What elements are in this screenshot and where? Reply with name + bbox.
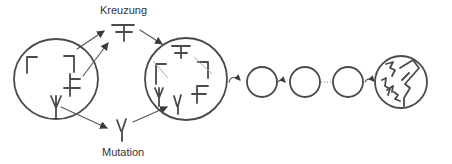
arrow-to-crossing-2 [83, 43, 108, 76]
generation-1-circle [247, 67, 277, 97]
complex-shape [386, 62, 395, 76]
mutation-symbol [117, 119, 126, 141]
faint-stroke [194, 57, 212, 74]
cross-f-symbol [192, 86, 208, 103]
final-population [375, 56, 427, 108]
crossing-symbol [112, 25, 134, 41]
complex-shape [394, 92, 400, 101]
arrow-crossing-to-next [140, 30, 162, 44]
complex-shape [382, 78, 390, 95]
generation-2-circle [290, 67, 320, 97]
generation-n-circle [333, 67, 363, 97]
trident-symbol [51, 96, 61, 118]
evolution-diagram: Kreuzung Mutation [0, 0, 452, 164]
complex-shape [400, 60, 419, 106]
mutation-label: Mutation [102, 146, 144, 158]
population-circle [375, 56, 427, 108]
arrow-to-crossing-1 [77, 31, 104, 49]
corner-right-symbol [64, 56, 74, 72]
cross-f-symbol [64, 74, 80, 96]
arrow-to-gen-1 [229, 77, 240, 82]
next-population [145, 38, 227, 120]
initial-population [14, 39, 98, 119]
double-cross-symbol [172, 46, 190, 58]
complex-shape [402, 73, 409, 80]
trident-symbol [155, 88, 163, 106]
corner-left-symbol [27, 57, 37, 73]
population-circle [145, 38, 227, 120]
arrow-to-gen-2 [278, 80, 285, 82]
gamma-symbol [174, 95, 181, 114]
crossing-label: Kreuzung [100, 4, 147, 16]
corner-right-symbol [198, 62, 208, 78]
arrow-mutation-to-next [133, 107, 167, 122]
arrow-to-final [365, 79, 374, 82]
diagram-canvas [0, 0, 452, 164]
